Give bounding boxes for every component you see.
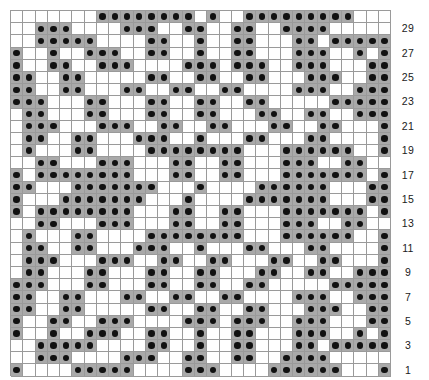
chart-cell-empty[interactable] (330, 60, 342, 72)
chart-cell-filled[interactable] (23, 72, 35, 84)
chart-cell-filled[interactable] (134, 243, 146, 255)
chart-cell-filled[interactable] (85, 145, 97, 157)
chart-cell-empty[interactable] (11, 121, 23, 133)
chart-cell-filled[interactable] (232, 316, 244, 328)
chart-cell-filled[interactable] (195, 352, 207, 364)
chart-cell-empty[interactable] (244, 206, 256, 218)
chart-cell-empty[interactable] (48, 230, 60, 242)
chart-cell-filled[interactable] (146, 304, 158, 316)
chart-cell-empty[interactable] (354, 316, 366, 328)
chart-cell-filled[interactable] (293, 340, 305, 352)
chart-cell-filled[interactable] (342, 230, 354, 242)
chart-cell-empty[interactable] (109, 352, 121, 364)
chart-cell-empty[interactable] (269, 84, 281, 96)
chart-cell-empty[interactable] (330, 23, 342, 35)
chart-cell-filled[interactable] (293, 230, 305, 242)
chart-cell-empty[interactable] (293, 304, 305, 316)
chart-cell-filled[interactable] (244, 340, 256, 352)
chart-cell-empty[interactable] (36, 194, 48, 206)
chart-cell-filled[interactable] (207, 72, 219, 84)
chart-cell-empty[interactable] (293, 133, 305, 145)
chart-cell-filled[interactable] (85, 35, 97, 47)
chart-cell-filled[interactable] (23, 243, 35, 255)
chart-cell-empty[interactable] (158, 157, 170, 169)
chart-cell-filled[interactable] (342, 157, 354, 169)
chart-cell-empty[interactable] (23, 206, 35, 218)
chart-cell-empty[interactable] (207, 243, 219, 255)
chart-cell-filled[interactable] (354, 291, 366, 303)
chart-cell-empty[interactable] (244, 169, 256, 181)
chart-cell-filled[interactable] (36, 23, 48, 35)
chart-cell-empty[interactable] (183, 96, 195, 108)
chart-cell-empty[interactable] (354, 364, 366, 376)
chart-cell-empty[interactable] (195, 291, 207, 303)
chart-cell-empty[interactable] (170, 364, 182, 376)
chart-cell-empty[interactable] (244, 291, 256, 303)
chart-cell-empty[interactable] (305, 255, 317, 267)
chart-cell-empty[interactable] (72, 157, 84, 169)
chart-cell-filled[interactable] (195, 145, 207, 157)
chart-cell-filled[interactable] (146, 230, 158, 242)
chart-cell-empty[interactable] (342, 23, 354, 35)
chart-cell-filled[interactable] (220, 157, 232, 169)
chart-cell-empty[interactable] (305, 96, 317, 108)
chart-cell-filled[interactable] (48, 255, 60, 267)
chart-cell-empty[interactable] (146, 84, 158, 96)
chart-cell-empty[interactable] (48, 133, 60, 145)
chart-cell-filled[interactable] (170, 291, 182, 303)
chart-cell-empty[interactable] (121, 304, 133, 316)
chart-cell-filled[interactable] (85, 48, 97, 60)
chart-cell-empty[interactable] (146, 218, 158, 230)
chart-cell-empty[interactable] (85, 218, 97, 230)
chart-cell-filled[interactable] (109, 218, 121, 230)
chart-cell-empty[interactable] (60, 255, 72, 267)
chart-cell-empty[interactable] (48, 267, 60, 279)
chart-cell-filled[interactable] (97, 267, 109, 279)
chart-cell-empty[interactable] (269, 340, 281, 352)
chart-cell-empty[interactable] (134, 328, 146, 340)
chart-cell-filled[interactable] (207, 316, 219, 328)
chart-cell-filled[interactable] (134, 182, 146, 194)
chart-cell-empty[interactable] (342, 328, 354, 340)
chart-cell-empty[interactable] (97, 133, 109, 145)
chart-cell-empty[interactable] (183, 255, 195, 267)
chart-cell-filled[interactable] (48, 340, 60, 352)
chart-cell-filled[interactable] (48, 23, 60, 35)
chart-cell-empty[interactable] (11, 145, 23, 157)
chart-cell-filled[interactable] (97, 328, 109, 340)
chart-cell-filled[interactable] (183, 157, 195, 169)
chart-cell-empty[interactable] (269, 279, 281, 291)
chart-cell-filled[interactable] (293, 35, 305, 47)
chart-cell-filled[interactable] (146, 96, 158, 108)
chart-cell-filled[interactable] (305, 35, 317, 47)
chart-cell-empty[interactable] (195, 169, 207, 181)
chart-cell-filled[interactable] (207, 364, 219, 376)
chart-cell-filled[interactable] (183, 291, 195, 303)
chart-cell-filled[interactable] (170, 218, 182, 230)
chart-cell-filled[interactable] (269, 11, 281, 23)
chart-cell-filled[interactable] (232, 218, 244, 230)
chart-cell-empty[interactable] (134, 72, 146, 84)
chart-cell-empty[interactable] (367, 133, 379, 145)
chart-cell-filled[interactable] (121, 182, 133, 194)
chart-cell-filled[interactable] (85, 169, 97, 181)
chart-cell-empty[interactable] (367, 11, 379, 23)
chart-cell-empty[interactable] (11, 35, 23, 47)
chart-cell-filled[interactable] (293, 60, 305, 72)
chart-cell-empty[interactable] (134, 267, 146, 279)
chart-cell-empty[interactable] (72, 316, 84, 328)
chart-cell-empty[interactable] (11, 157, 23, 169)
chart-cell-filled[interactable] (48, 35, 60, 47)
chart-cell-empty[interactable] (256, 352, 268, 364)
chart-cell-empty[interactable] (85, 304, 97, 316)
chart-cell-filled[interactable] (146, 11, 158, 23)
chart-cell-empty[interactable] (342, 182, 354, 194)
chart-cell-filled[interactable] (318, 316, 330, 328)
chart-cell-filled[interactable] (48, 316, 60, 328)
chart-cell-empty[interactable] (158, 352, 170, 364)
chart-cell-empty[interactable] (134, 218, 146, 230)
chart-cell-filled[interactable] (72, 72, 84, 84)
chart-cell-empty[interactable] (23, 194, 35, 206)
chart-cell-filled[interactable] (97, 109, 109, 121)
chart-cell-filled[interactable] (146, 340, 158, 352)
